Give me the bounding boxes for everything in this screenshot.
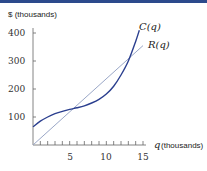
chart: $ (thousands) 400 300 200 100 5 10 15 q … [0,0,207,171]
x-axis-unit: (thousands) [161,141,204,150]
revenue-label: R(q) [147,39,170,50]
cost-label: C(q) [139,21,161,32]
y-tick-100: 100 [8,112,25,122]
y-axis-label: $ (thousands) [8,10,57,19]
x-tick-labels: 5 10 15 [67,152,149,162]
x-tick-10: 10 [100,152,112,162]
x-ticks [40,141,143,145]
y-tick-200: 200 [8,84,25,94]
y-tick-400: 400 [8,28,25,38]
x-axis-var: q [154,139,160,150]
x-tick-5: 5 [67,152,73,162]
cost-curve [33,30,139,127]
revenue-line [33,46,143,145]
x-tick-15: 15 [137,152,149,162]
y-tick-300: 300 [8,56,25,66]
y-tick-labels: 400 300 200 100 [8,28,25,122]
y-ticks [33,33,36,117]
